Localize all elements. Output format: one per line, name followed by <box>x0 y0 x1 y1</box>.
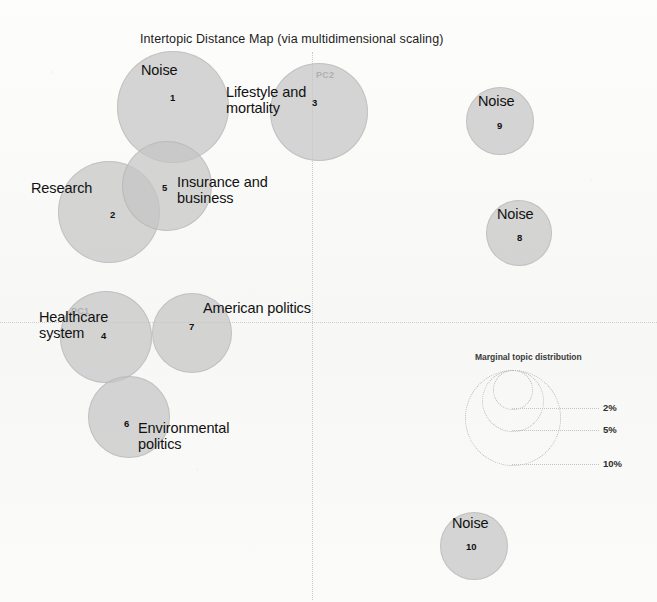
topic-label-4: Healthcare system <box>39 309 108 341</box>
topic-label-9: Noise <box>478 93 515 109</box>
topic-number-8: 8 <box>517 232 522 243</box>
page-title: Intertopic Distance Map (via multidimens… <box>140 32 443 46</box>
topic-number-6: 6 <box>124 418 129 429</box>
topic-number-9: 9 <box>497 120 502 131</box>
legend-title: Marginal topic distribution <box>475 352 582 362</box>
legend-rule-2pct <box>512 408 599 409</box>
legend-circle-2pct <box>493 370 533 410</box>
topic-number-7: 7 <box>189 321 194 332</box>
topic-label-2: Research <box>31 180 92 196</box>
topic-label-10: Noise <box>452 515 489 531</box>
marginal-topic-distribution-legend: Marginal topic distribution 2% 5% 10% <box>460 352 650 472</box>
legend-label-5pct: 5% <box>603 424 617 435</box>
topic-label-6: Environmental politics <box>138 420 229 452</box>
topic-number-5: 5 <box>162 182 167 193</box>
topic-label-8: Noise <box>497 206 534 222</box>
legend-rule-5pct <box>512 430 599 431</box>
topic-label-1: Noise <box>141 62 178 78</box>
legend-label-10pct: 10% <box>603 458 622 469</box>
topic-number-3: 3 <box>312 97 317 108</box>
topic-label-3: Lifestyle and mortality <box>226 84 306 116</box>
topic-number-1: 1 <box>170 92 175 103</box>
topic-number-10: 10 <box>466 541 477 552</box>
legend-rule-10pct <box>512 464 599 465</box>
topic-label-7: American politics <box>203 300 311 316</box>
legend-label-2pct: 2% <box>603 402 617 413</box>
topic-number-4: 4 <box>101 330 106 341</box>
topic-number-2: 2 <box>110 209 115 220</box>
topic-label-5: Insurance and business <box>177 174 268 206</box>
intertopic-distance-map: Intertopic Distance Map (via multidimens… <box>0 0 657 602</box>
